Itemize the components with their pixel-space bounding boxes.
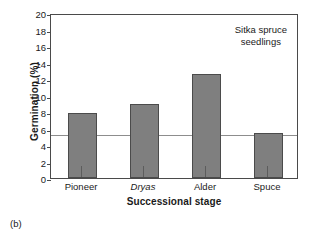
bar-center-tick <box>205 166 206 177</box>
y-axis-tick-label: 6 <box>41 126 46 136</box>
bar <box>192 74 221 178</box>
y-axis-tick-label: 12 <box>35 76 46 86</box>
y-axis-tick-mark <box>47 114 51 115</box>
y-axis-tick-label: 2 <box>41 159 46 169</box>
chart-annotation: Sitka spruce seedlings <box>235 24 287 48</box>
y-axis-tick-label: 10 <box>35 93 46 103</box>
bar <box>68 113 97 178</box>
y-axis-tick-mark <box>47 98 51 99</box>
y-axis-tick-label: 8 <box>41 109 46 119</box>
y-axis-tick-mark <box>47 131 51 132</box>
figure-panel-b: Germination (%) 02468101214161820 Sitka … <box>0 0 317 238</box>
bar-center-tick <box>143 166 144 177</box>
annotation-line-2: seedlings <box>235 36 287 48</box>
y-axis-tick-mark <box>47 65 51 66</box>
panel-caption: (b) <box>10 219 22 229</box>
y-axis-tick-label: 14 <box>35 60 46 70</box>
y-axis-tick-mark <box>47 32 51 33</box>
y-axis-tick-mark <box>47 48 51 49</box>
bar <box>254 133 283 178</box>
bar-center-tick <box>267 166 268 177</box>
y-axis-tick-label: 20 <box>35 10 46 20</box>
plot-frame: 02468101214161820 Sitka spruce seedlings <box>50 14 298 179</box>
bar <box>130 104 159 178</box>
x-axis-tick-label: Dryas <box>131 182 156 192</box>
x-axis-tick-label: Pioneer <box>65 182 98 192</box>
y-axis-tick-mark <box>47 147 51 148</box>
y-axis-tick-label: 18 <box>35 27 46 37</box>
y-axis-tick-mark <box>47 180 51 181</box>
x-axis-title: Successional stage <box>50 196 298 207</box>
y-axis-tick-label: 16 <box>35 43 46 53</box>
y-axis-tick-label: 4 <box>41 142 46 152</box>
y-axis-tick-mark <box>47 164 51 165</box>
annotation-line-1: Sitka spruce <box>235 24 287 36</box>
x-axis-tick-label: Alder <box>194 182 216 192</box>
x-axis-tick-label: Spuce <box>254 182 281 192</box>
y-axis-tick-label: 0 <box>41 175 46 185</box>
y-axis-tick-mark <box>47 81 51 82</box>
bar-center-tick <box>81 166 82 177</box>
y-axis-tick-mark <box>47 15 51 16</box>
